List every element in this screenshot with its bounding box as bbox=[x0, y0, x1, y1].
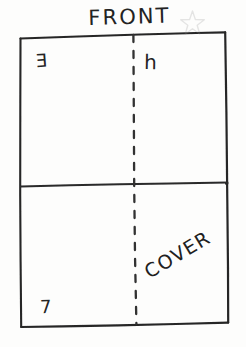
page-title: FRONT bbox=[88, 4, 171, 30]
fold-dashed-line bbox=[133, 35, 136, 324]
quadrant-label-top-right: h bbox=[144, 50, 157, 74]
star-icon bbox=[181, 11, 205, 34]
page-number: 7 bbox=[40, 296, 52, 317]
sketch-canvas: FRONT E h COVER 7 bbox=[0, 0, 246, 347]
sketch-outline bbox=[21, 32, 226, 38]
sketch-outline-bottom bbox=[21, 323, 228, 327]
horizontal-divider bbox=[21, 183, 228, 187]
quadrant-label-top-left: E bbox=[35, 50, 48, 72]
sketch-outline-left bbox=[20, 39, 21, 328]
sketch-outline-right bbox=[225, 32, 228, 322]
